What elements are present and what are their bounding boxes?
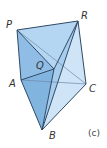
vertex-label-a: A xyxy=(8,78,16,89)
vertex-label-r: R xyxy=(81,10,88,21)
figure-caption: (c) xyxy=(88,128,100,138)
vertex-label-c: C xyxy=(89,83,96,94)
vertex-label-p: P xyxy=(6,19,13,30)
vertex-label-b: B xyxy=(49,130,56,141)
vertex-label-q: Q xyxy=(36,60,44,71)
geometry-figure: P R Q A C B (c) xyxy=(0,0,107,148)
